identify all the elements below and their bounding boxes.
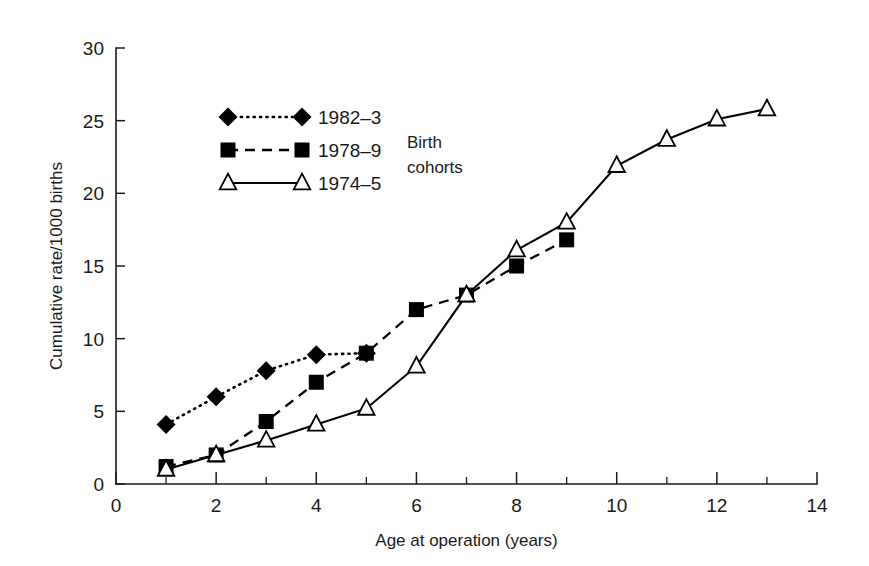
chart-figure: 051015202530 02468101214 1982–31978–9197… (0, 0, 869, 566)
y-tick-label-10: 10 (83, 329, 104, 350)
y-tick-label-5: 5 (93, 401, 104, 422)
y-tick-label-15: 15 (83, 256, 104, 277)
y-axis-tick-labels: 051015202530 (83, 38, 104, 495)
chart-legend: 1982–31978–91974–5Birthcohorts (219, 107, 463, 194)
x-tick-label-2: 2 (211, 495, 222, 516)
x-tick-label-6: 6 (411, 495, 422, 516)
legend-label: 1974–5 (318, 173, 381, 194)
data-point (307, 345, 326, 364)
data-point (759, 100, 776, 116)
legend-marker-left (220, 174, 237, 190)
data-point (509, 259, 524, 274)
x-tick-label-0: 0 (111, 495, 122, 516)
y-axis-title: Cumulative rate/1000 births (47, 162, 66, 370)
legend-entry-1982-3[interactable]: 1982–3 (219, 107, 382, 128)
data-point (358, 399, 375, 415)
x-axis-tick-labels: 02468101214 (111, 495, 828, 516)
legend-marker-left (219, 108, 238, 127)
legend-label: 1978–9 (318, 140, 381, 161)
legend-marker-right (293, 108, 312, 127)
y-tick-label-30: 30 (83, 38, 104, 59)
legend-title-line-1: Birth (407, 133, 442, 152)
legend-entry-1974-5[interactable]: 1974–5 (220, 173, 382, 194)
y-tick-label-20: 20 (83, 183, 104, 204)
x-axis-title: Age at operation (years) (375, 531, 557, 550)
series-markers-1978-9 (159, 232, 575, 474)
x-tick-label-10: 10 (606, 495, 627, 516)
data-point (559, 232, 574, 247)
data-point (309, 375, 324, 390)
data-point (157, 415, 176, 434)
data-point (259, 414, 274, 429)
y-tick-label-0: 0 (93, 474, 104, 495)
line-chart-canvas: 051015202530 02468101214 1982–31978–9197… (0, 0, 869, 566)
data-point (207, 387, 226, 406)
data-series-group (157, 100, 776, 476)
data-point (257, 361, 276, 380)
legend-marker-right (294, 174, 311, 190)
x-tick-label-8: 8 (511, 495, 522, 516)
legend-entry-1978-9[interactable]: 1978–9 (221, 140, 382, 161)
data-point (409, 302, 424, 317)
legend-marker-left (221, 143, 236, 158)
x-tick-label-14: 14 (806, 495, 828, 516)
x-tick-label-4: 4 (311, 495, 322, 516)
data-point (608, 156, 625, 172)
legend-title-line-2: cohorts (407, 158, 463, 177)
x-tick-label-12: 12 (706, 495, 727, 516)
series-markers-1974-5 (158, 100, 775, 476)
data-point (359, 346, 374, 361)
legend-marker-right (295, 143, 310, 158)
x-axis-ticks (116, 472, 817, 484)
y-axis-ticks (116, 48, 125, 484)
data-point (508, 241, 524, 257)
y-tick-label-25: 25 (83, 111, 104, 132)
legend-label: 1982–3 (318, 107, 381, 128)
